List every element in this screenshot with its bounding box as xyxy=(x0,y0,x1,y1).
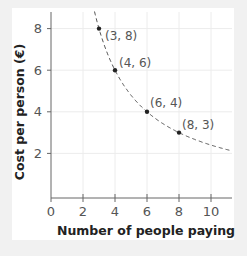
point-label-4-6: (4, 6) xyxy=(119,56,151,70)
point-6-4 xyxy=(145,110,149,114)
point-label-8-3: (8, 3) xyxy=(182,118,214,132)
axes xyxy=(47,12,232,202)
y-tick-4: 4 xyxy=(34,104,42,119)
grid xyxy=(51,12,232,198)
point-4-6 xyxy=(113,68,117,72)
point-labels: (3, 8) (4, 6) (6, 4) (8, 3) xyxy=(105,29,214,132)
point-8-3 xyxy=(177,130,181,134)
point-label-6-4: (6, 4) xyxy=(150,96,182,110)
chart-svg: 8 6 4 2 0 2 4 6 8 10 (3, 8) (4, 6) (6, 4… xyxy=(0,0,247,256)
x-tick-8: 8 xyxy=(175,204,183,219)
point-label-3-8: (3, 8) xyxy=(105,29,137,43)
x-tick-2: 2 xyxy=(79,204,87,219)
x-axis-title: Number of people paying xyxy=(57,223,235,238)
x-tick-10: 10 xyxy=(203,204,220,219)
y-tick-6: 6 xyxy=(34,63,42,78)
y-axis-title: Cost per person (€) xyxy=(12,44,27,180)
x-tick-6: 6 xyxy=(143,204,151,219)
x-tick-0: 0 xyxy=(47,204,55,219)
y-tick-8: 8 xyxy=(34,21,42,36)
y-tick-labels: 8 6 4 2 xyxy=(34,21,42,161)
x-tick-4: 4 xyxy=(111,204,119,219)
point-3-8 xyxy=(97,26,101,30)
y-tick-2: 2 xyxy=(34,146,42,161)
x-tick-labels: 0 2 4 6 8 10 xyxy=(47,204,219,219)
